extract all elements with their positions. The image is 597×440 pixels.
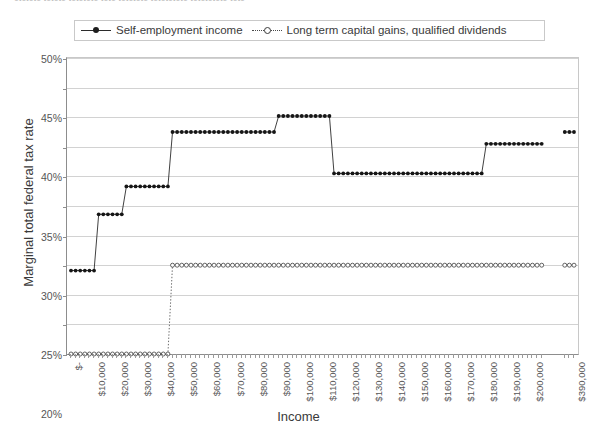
data-point-marker: [148, 185, 152, 189]
x-axis-tick-mark: [328, 354, 329, 358]
x-axis-tick-mark: [70, 354, 71, 358]
x-axis-tick-mark: [213, 354, 214, 358]
data-point-marker: [194, 263, 198, 267]
x-axis-tick-mark: [379, 354, 380, 358]
data-point-marker: [397, 172, 401, 176]
data-point-marker: [378, 172, 382, 176]
data-point-marker: [175, 263, 179, 267]
x-axis-tick-mark: [102, 354, 103, 358]
data-point-marker: [461, 263, 465, 267]
x-axis-tick-label: $150,000: [420, 362, 430, 402]
data-point-marker: [567, 263, 571, 267]
data-point-marker: [281, 263, 285, 267]
data-point-marker: [235, 130, 239, 134]
series-layer: [67, 58, 578, 354]
x-axis-tick-mark: [218, 354, 219, 358]
data-point-marker: [530, 263, 534, 267]
x-axis-tick-mark: [518, 354, 519, 358]
x-axis-tick-mark: [268, 354, 269, 358]
y-axis-tick-label: 30%: [41, 290, 62, 302]
data-point-marker: [212, 263, 216, 267]
data-point-marker: [387, 263, 391, 267]
data-point-marker: [457, 263, 461, 267]
x-axis-tick-mark: [301, 354, 302, 358]
data-point-marker: [521, 142, 525, 146]
x-axis-tick-mark: [333, 354, 334, 358]
data-point-marker: [323, 114, 327, 118]
data-point-marker: [401, 263, 405, 267]
legend-label-long-term-capital-gains: Long term capital gains, qualified divid…: [287, 25, 507, 37]
x-axis-tick-mark: [485, 354, 486, 358]
data-point-marker: [83, 269, 87, 273]
x-axis-tick-mark: [204, 354, 205, 358]
x-axis-tick-label: $120,000: [351, 362, 361, 402]
data-point-marker: [272, 130, 276, 134]
data-point-marker: [535, 142, 539, 146]
x-axis-tick-mark: [476, 354, 477, 358]
data-point-marker: [184, 263, 188, 267]
x-axis-tick-mark: [287, 354, 288, 358]
data-point-marker: [115, 212, 119, 216]
x-axis-tick-mark: [190, 354, 191, 358]
x-axis-tick-mark: [208, 354, 209, 358]
x-axis-tick-mark: [121, 354, 122, 358]
x-axis-tick-labels: $-$10,000$20,000$30,000$40,000$50,000$60…: [0, 360, 597, 408]
data-point-marker: [383, 172, 387, 176]
data-point-marker: [337, 172, 341, 176]
x-axis-tick-mark: [462, 354, 463, 358]
x-axis-tick-mark: [513, 354, 514, 358]
y-axis-tick-label: 40%: [41, 171, 62, 183]
x-axis-tick-mark: [282, 354, 283, 358]
x-axis-tick-mark: [342, 354, 343, 358]
x-axis-tick-mark: [531, 354, 532, 358]
data-point-marker: [281, 114, 285, 118]
x-axis-tick-label: $20,000: [120, 362, 130, 396]
data-point-marker: [341, 172, 345, 176]
data-point-marker: [180, 130, 184, 134]
data-point-marker: [198, 130, 202, 134]
data-point-marker: [572, 263, 576, 267]
x-axis-tick-mark: [453, 354, 454, 358]
x-axis-tick-mark: [135, 354, 136, 358]
x-axis-tick-mark: [172, 354, 173, 358]
data-point-marker: [503, 142, 507, 146]
data-point-marker: [374, 263, 378, 267]
data-point-marker: [355, 263, 359, 267]
x-axis-tick-mark: [305, 354, 306, 358]
data-point-marker: [406, 172, 410, 176]
series-long-term-capital-gains: [69, 263, 576, 356]
x-axis-tick-mark: [227, 354, 228, 358]
x-axis-tick-mark: [356, 354, 357, 358]
legend-entry-long-term-capital-gains: Long term capital gains, qualified divid…: [252, 25, 507, 37]
data-point-marker: [540, 142, 544, 146]
x-axis-tick-label: $10,000: [97, 362, 107, 396]
data-point-marker: [466, 172, 470, 176]
x-axis-tick-mark: [504, 354, 505, 358]
x-axis-tick-mark: [107, 354, 108, 358]
data-point-marker: [341, 263, 345, 267]
data-point-marker: [420, 172, 424, 176]
x-axis-tick-mark: [162, 354, 163, 358]
data-point-marker: [92, 269, 96, 273]
data-point-marker: [411, 172, 415, 176]
x-axis-tick-mark: [393, 354, 394, 358]
data-point-marker: [535, 263, 539, 267]
x-axis-tick-label: $110,000: [328, 362, 338, 401]
data-point-marker: [189, 130, 193, 134]
data-point-marker: [254, 263, 258, 267]
x-axis-tick-mark: [467, 354, 468, 358]
data-point-marker: [540, 263, 544, 267]
x-axis-tick-mark: [93, 354, 94, 358]
data-point-marker: [526, 142, 530, 146]
legend-label-self-employment-income: Self-employment income: [116, 25, 243, 37]
data-point-marker: [355, 172, 359, 176]
data-point-marker: [443, 263, 447, 267]
x-axis-tick-mark: [292, 354, 293, 358]
x-axis-tick-mark: [222, 354, 223, 358]
y-axis-tick-label: 35%: [41, 231, 62, 243]
x-axis-tick-mark: [435, 354, 436, 358]
data-point-marker: [332, 263, 336, 267]
x-axis-tick-mark: [536, 354, 537, 358]
data-point-marker: [69, 269, 73, 273]
x-axis-tick-mark: [522, 354, 523, 358]
